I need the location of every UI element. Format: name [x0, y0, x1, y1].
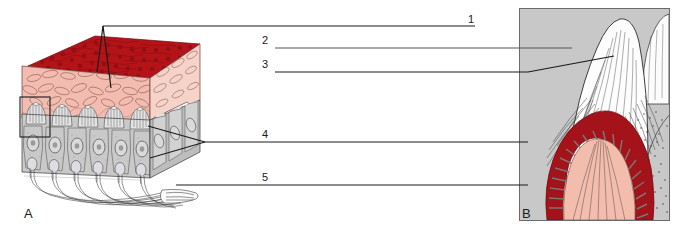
leader-line-3	[275, 56, 614, 72]
leader-label-5: 5	[262, 172, 268, 183]
panel-letter-a: A	[24, 206, 33, 221]
leader-label-1: 1	[468, 14, 474, 25]
leader-line-4	[148, 126, 528, 158]
leader-label-4: 4	[262, 129, 268, 140]
leader-lines-layer	[0, 0, 692, 237]
panel-letter-b: B	[522, 206, 531, 221]
leader-line-1	[97, 26, 475, 88]
leader-label-3: 3	[262, 59, 268, 70]
leader-label-2: 2	[262, 35, 268, 46]
figure-root: 1 2 3 4 5 A B	[0, 0, 692, 237]
